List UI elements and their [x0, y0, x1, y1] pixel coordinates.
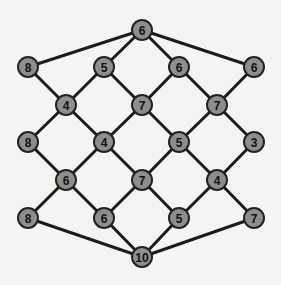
node-label: 8	[25, 61, 32, 75]
node-label: 6	[63, 174, 70, 188]
node-label: 6	[139, 24, 146, 38]
graph-node: 8	[18, 132, 38, 152]
node-label: 4	[101, 136, 108, 150]
graph-node: 8	[18, 208, 38, 228]
graph-node: 4	[56, 95, 76, 115]
lattice-diagram: 685664778453674865710	[0, 0, 281, 285]
graph-node: 8	[18, 57, 38, 77]
graph-node: 7	[132, 95, 152, 115]
node-label: 7	[139, 99, 146, 113]
node-label: 6	[101, 212, 108, 226]
graph-node: 5	[169, 132, 189, 152]
node-label: 7	[214, 99, 221, 113]
graph-node: 6	[56, 170, 76, 190]
graph-node: 6	[244, 57, 264, 77]
node-label: 8	[25, 136, 32, 150]
node-label: 3	[251, 136, 258, 150]
graph-node: 5	[169, 208, 189, 228]
graph-node: 4	[94, 132, 114, 152]
node-label: 6	[176, 61, 183, 75]
graph-node: 3	[244, 132, 264, 152]
graph-node: 5	[94, 57, 114, 77]
graph-node: 6	[94, 208, 114, 228]
node-label: 5	[176, 212, 183, 226]
node-label: 4	[214, 174, 221, 188]
node-label: 7	[139, 174, 146, 188]
graph-node: 4	[207, 170, 227, 190]
node-label: 10	[135, 251, 149, 265]
graph-node: 6	[132, 20, 152, 40]
graph-node: 10	[132, 247, 152, 267]
edges-layer	[28, 30, 254, 257]
node-label: 5	[176, 136, 183, 150]
graph-node: 7	[132, 170, 152, 190]
node-label: 8	[25, 212, 32, 226]
node-label: 5	[101, 61, 108, 75]
node-label: 4	[63, 99, 70, 113]
graph-node: 6	[169, 57, 189, 77]
node-label: 7	[251, 212, 258, 226]
graph-node: 7	[207, 95, 227, 115]
node-label: 6	[251, 61, 258, 75]
graph-node: 7	[244, 208, 264, 228]
